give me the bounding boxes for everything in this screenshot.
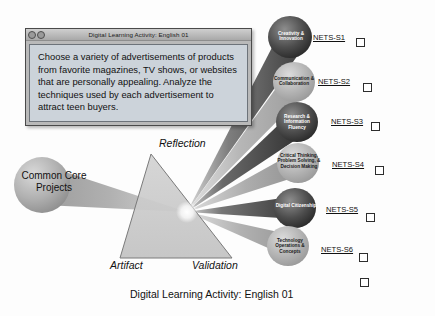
spoke-label-nets-s5: Digital Citizenship (275, 203, 317, 208)
dialog-title: Digital Learning Activity: English 01 (26, 29, 251, 40)
checkbox-nets-s4[interactable] (375, 166, 384, 175)
vertex-label-artifact: Artifact (110, 259, 143, 271)
minimize-icon[interactable] (37, 31, 45, 39)
vertex-label-reflection: Reflection (159, 137, 206, 149)
nets-code-nets-s5[interactable]: NETS-S5 (326, 205, 358, 214)
spoke-label-nets-s6: Technology Operations & Concepts (266, 238, 314, 254)
nets-code-nets-s3[interactable]: NETS-S3 (331, 117, 363, 126)
spoke-label-nets-s3: Research & Information Fluency (275, 114, 319, 130)
input-bubble-label: Common Core Projects (14, 170, 94, 194)
nets-code-nets-s1[interactable]: NETS-S1 (313, 33, 345, 42)
diagram-canvas: Digital Learning Activity: English 01 Ch… (0, 0, 435, 316)
nets-code-nets-s6[interactable]: NETS-S6 (321, 245, 353, 254)
dialog-titlebar[interactable]: Digital Learning Activity: English 01 (26, 29, 251, 41)
dialog-inner: Choose a variety of advertisements of pr… (26, 41, 251, 125)
figure-caption: Digital Learning Activity: English 01 (130, 288, 293, 300)
spoke-label-nets-s2: Communication & Collaboration (270, 76, 318, 87)
nets-code-nets-s2[interactable]: NETS-S2 (318, 77, 350, 86)
window-controls (28, 31, 45, 39)
close-icon[interactable] (28, 31, 36, 39)
nets-code-nets-s4[interactable]: NETS-S4 (332, 160, 364, 169)
checkbox-nets-s5[interactable] (366, 213, 375, 222)
spoke-label-nets-s1: Creativity & Innovation (268, 31, 314, 42)
vertex-label-validation: Validation (192, 259, 238, 271)
spoke-label-nets-s4: Critical Thinking, Problem Solving, & De… (273, 153, 325, 169)
checkbox-extra[interactable] (360, 278, 369, 287)
checkbox-nets-s1[interactable] (356, 38, 365, 47)
dialog-body-text: Choose a variety of advertisements of pr… (29, 44, 248, 122)
checkbox-nets-s6[interactable] (359, 253, 368, 262)
activity-dialog[interactable]: Digital Learning Activity: English 01 Ch… (25, 28, 252, 126)
convergence-glow (176, 201, 198, 223)
checkbox-nets-s3[interactable] (371, 122, 380, 131)
checkbox-nets-s2[interactable] (363, 83, 372, 92)
